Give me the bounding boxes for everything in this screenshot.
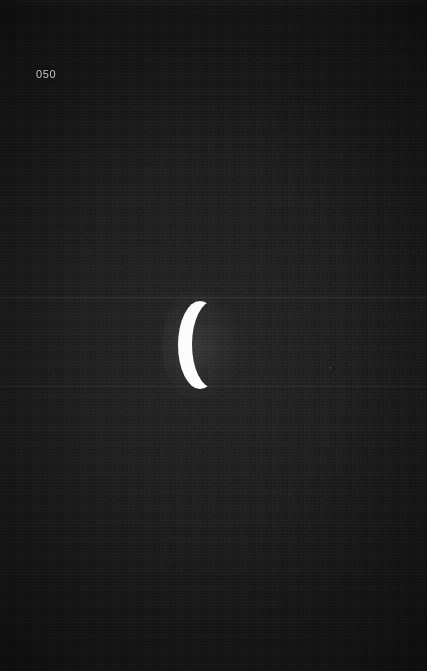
image-viewer: 050 [0, 0, 427, 671]
crescent-moon-icon [178, 300, 226, 390]
crescent-moon [178, 300, 226, 390]
frame-counter-label: 050 [36, 68, 56, 81]
faint-star [330, 367, 331, 369]
